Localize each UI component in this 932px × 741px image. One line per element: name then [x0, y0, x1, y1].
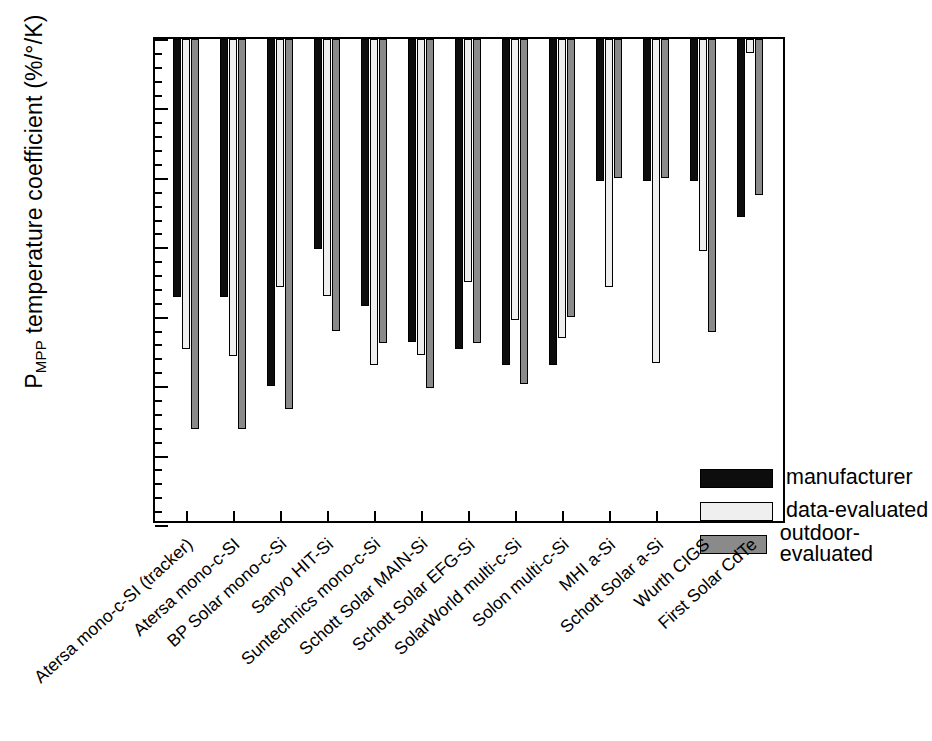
bar-2-10 — [661, 39, 669, 178]
bar-2-5 — [426, 39, 434, 388]
bar-1-1 — [229, 39, 237, 356]
bar-2-7 — [520, 39, 528, 384]
bar-0-3 — [314, 39, 322, 249]
x-axis-label-7: SolarWorld multi-c-Si — [390, 534, 526, 659]
legend-item-manufacturer: manufacturer — [700, 465, 932, 491]
bar-0-11 — [690, 39, 698, 181]
y-axis-title: PMPP temperature coefficient (%/°/K) — [21, 0, 48, 432]
x-axis-label-8: Solon multi-c-Si — [468, 534, 573, 632]
bar-1-3 — [323, 39, 331, 296]
bar-0-4 — [361, 39, 369, 306]
bar-0-12 — [737, 39, 745, 217]
bar-2-8 — [567, 39, 575, 317]
legend-label-data-evaluated: data-evaluated — [786, 500, 928, 522]
bar-0-6 — [455, 39, 463, 349]
x-axis-label-2: BP Solar mono-c-Si — [163, 534, 291, 652]
y-tick-major — [155, 525, 168, 527]
bar-0-5 — [408, 39, 416, 342]
bar-0-2 — [267, 39, 275, 386]
x-axis-label-5: Schott Solar MAIN-Si — [295, 534, 432, 660]
bar-2-4 — [379, 39, 387, 343]
bar-1-2 — [276, 39, 284, 287]
bar-1-4 — [370, 39, 378, 365]
bar-0-10 — [643, 39, 651, 181]
x-axis-label-1: Atersa mono-c-SI — [129, 534, 244, 641]
legend-swatch-data-evaluated — [700, 502, 773, 521]
y-axis-title-p: P — [21, 373, 47, 389]
y-axis-title-subscript: MPP — [32, 340, 49, 373]
bar-0-0 — [173, 39, 181, 297]
x-axis-label-10: Schott Solar a-Si — [556, 534, 668, 637]
bar-1-9 — [605, 39, 613, 287]
bar-1-11 — [699, 39, 707, 251]
bar-0-9 — [596, 39, 604, 181]
x-axis-label-3: Sanyo HIT-Si — [247, 534, 338, 619]
bar-0-1 — [220, 39, 228, 297]
legend-swatch-manufacturer — [700, 469, 773, 488]
legend-label-outdoor-evaluated: outdoor-evaluated — [780, 523, 932, 566]
legend: manufacturer data-evaluated outdoor-eval… — [700, 465, 932, 557]
bar-2-2 — [285, 39, 293, 409]
x-axis-label-0: Atersa mono-c-SI (tracker) — [30, 534, 197, 688]
plot-area: 0.0-0.1-0.2-0.3-0.4-0.5-0.6-0.7 manufact… — [153, 37, 785, 523]
bar-2-11 — [708, 39, 716, 332]
bar-1-10 — [652, 39, 660, 363]
bar-1-8 — [558, 39, 566, 338]
bar-2-6 — [473, 39, 481, 343]
bar-1-5 — [417, 39, 425, 355]
bar-2-0 — [191, 39, 199, 429]
legend-label-manufacturer: manufacturer — [786, 467, 913, 489]
x-axis-label-4: Suntechnics mono-c-Si — [237, 534, 385, 670]
x-axis-label-6: Schott Solar EFG-Si — [348, 534, 479, 655]
bar-2-1 — [238, 39, 246, 429]
bar-0-8 — [549, 39, 557, 365]
bar-1-12 — [746, 39, 754, 53]
legend-swatch-outdoor-evaluated — [700, 535, 767, 554]
bar-1-6 — [464, 39, 472, 282]
bars-layer — [155, 39, 783, 521]
y-axis-title-rest: temperature coefficient (%/°/K) — [21, 14, 47, 340]
bar-2-3 — [332, 39, 340, 331]
bar-1-7 — [511, 39, 519, 320]
legend-item-outdoor-evaluated: outdoor-evaluated — [700, 531, 932, 557]
x-axis-label-9: MHI a-Si — [555, 534, 620, 595]
bar-0-7 — [502, 39, 510, 365]
bar-2-9 — [614, 39, 622, 178]
bar-2-12 — [755, 39, 763, 195]
bar-1-0 — [182, 39, 190, 349]
